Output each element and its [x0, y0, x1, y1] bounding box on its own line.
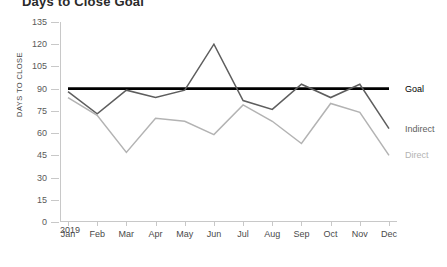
y-axis-tick	[51, 133, 59, 134]
y-axis-tick-label: 105	[32, 61, 47, 71]
y-axis-tick	[51, 66, 59, 67]
x-axis-tick	[185, 222, 186, 226]
y-axis-tick	[51, 44, 59, 45]
series-line-indirect	[68, 44, 389, 128]
chart-title: Days to Close Goal	[22, 0, 144, 9]
y-axis-tick-label: 30	[37, 173, 47, 183]
x-axis-tick	[214, 222, 215, 226]
y-axis-tick	[51, 155, 59, 156]
y-axis-tick-label: 135	[32, 17, 47, 27]
x-axis-tick	[126, 222, 127, 226]
x-axis-tick-label: Feb	[89, 229, 105, 239]
x-axis-tick	[389, 222, 390, 226]
y-axis-tick-label: 120	[32, 39, 47, 49]
y-axis-tick-label: 0	[42, 217, 47, 227]
x-axis-tick	[331, 222, 332, 226]
y-axis-tick	[51, 22, 59, 23]
y-axis-tick-label: 15	[37, 195, 47, 205]
x-axis-tick-label: Aug	[264, 229, 280, 239]
chart-container: Days to Close Goal DAYS TO CLOSE 0153045…	[0, 0, 447, 267]
x-axis-year-label: 2019	[60, 225, 80, 235]
y-axis-tick	[51, 178, 59, 179]
x-axis-tick	[272, 222, 273, 226]
x-axis-tick-label: Jul	[237, 229, 249, 239]
legend-label-direct[interactable]: Direct	[405, 150, 429, 160]
x-axis-tick-label: May	[176, 229, 193, 239]
x-axis-tick	[97, 222, 98, 226]
legend-label-goal[interactable]: Goal	[405, 84, 424, 94]
y-axis-tick	[51, 111, 59, 112]
y-axis-tick-label: 60	[37, 128, 47, 138]
x-axis-tick	[301, 222, 302, 226]
x-axis-tick-label: Oct	[324, 229, 338, 239]
x-axis-tick-label: Dec	[381, 229, 397, 239]
x-axis-tick	[243, 222, 244, 226]
series-layer	[60, 22, 397, 222]
plot-area: 0153045607590105120135 JanFebMarAprMayJu…	[60, 22, 397, 222]
y-axis-tick-label: 45	[37, 150, 47, 160]
y-axis-tick	[51, 89, 59, 90]
series-line-direct	[68, 98, 389, 156]
legend-label-indirect[interactable]: Indirect	[405, 124, 435, 134]
x-axis-tick-label: Nov	[352, 229, 368, 239]
y-axis-tick	[51, 200, 59, 201]
y-axis-tick-label: 75	[37, 106, 47, 116]
y-axis-tick-label: 90	[37, 84, 47, 94]
y-axis-title: DAYS TO CLOSE	[15, 25, 24, 145]
x-axis-tick-label: Jun	[207, 229, 222, 239]
x-axis-tick-label: Mar	[119, 229, 135, 239]
x-axis-tick	[156, 222, 157, 226]
y-axis-tick	[51, 222, 59, 223]
x-axis-tick	[360, 222, 361, 226]
x-axis-tick-label: Apr	[149, 229, 163, 239]
x-axis-tick-label: Sep	[293, 229, 309, 239]
